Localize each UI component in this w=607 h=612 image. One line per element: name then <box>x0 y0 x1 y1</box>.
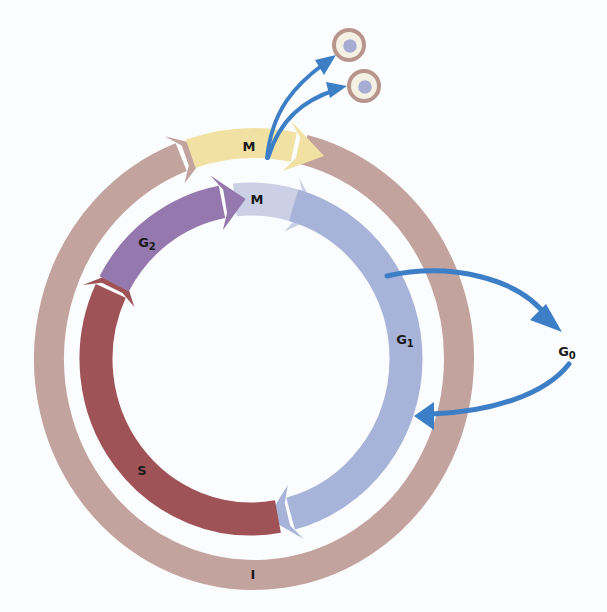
s-text: S <box>137 463 146 478</box>
label-g2: G2 <box>138 235 156 252</box>
g0-subscript: 0 <box>569 350 576 361</box>
cell-nucleus-icon <box>343 39 357 53</box>
g2-text: G <box>138 235 149 250</box>
g0-text: G <box>558 344 569 359</box>
g1-subscript: 1 <box>407 338 414 349</box>
g1-text: G <box>396 332 407 347</box>
interphase-text: I <box>251 567 256 582</box>
label-g1: G1 <box>396 332 414 349</box>
label-interphase: I <box>251 567 256 582</box>
cell-cycle-diagram <box>0 0 607 612</box>
label-mitosis-outer: M <box>243 139 256 154</box>
label-s-phase: S <box>137 463 146 478</box>
cell-nucleus-icon <box>358 80 372 94</box>
mitosis-outer-text: M <box>243 139 256 154</box>
label-mitosis-inner: M <box>251 192 264 207</box>
mitosis-inner-text: M <box>251 192 264 207</box>
g2-subscript: 2 <box>149 241 156 252</box>
label-g0: G0 <box>558 344 576 361</box>
